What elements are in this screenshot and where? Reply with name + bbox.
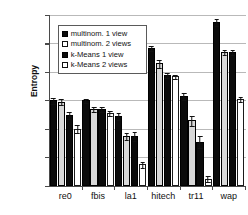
error-bar-cap-bottom	[198, 148, 203, 149]
chart-legend: multinom. 1 view multinom. 2 views k-Mea…	[58, 25, 147, 74]
error-bar-cap-top	[116, 113, 121, 114]
x-axis-tickmark	[212, 186, 213, 190]
error-bar	[198, 136, 203, 149]
legend-item-multinom-1-view: multinom. 1 view	[62, 29, 143, 40]
error-bar	[92, 107, 97, 113]
error-bar-cap-top	[124, 133, 129, 134]
error-bar	[84, 99, 89, 104]
x-axis-tickmark	[147, 186, 148, 190]
error-bar-cap-top	[75, 125, 80, 126]
bar	[196, 142, 203, 186]
legend-label-kmeans-1-view: k-Means 1 view	[71, 50, 124, 60]
bar	[213, 22, 220, 185]
error-bar-cap-top	[149, 46, 154, 47]
bar-group	[147, 15, 180, 186]
error-bar	[157, 60, 162, 69]
error-bar	[116, 113, 121, 122]
bar	[229, 52, 236, 186]
error-bar-cap-bottom	[149, 51, 154, 52]
error-bar-cap-bottom	[140, 168, 145, 169]
entropy-bar-chart: Entropy 0,951,151,351,551,751,952,15 re0…	[0, 0, 248, 215]
error-bar	[149, 46, 154, 52]
error-bar-cap-top	[59, 99, 64, 100]
bar	[188, 120, 195, 185]
error-bar-cap-bottom	[214, 26, 219, 27]
error-bar-cap-bottom	[222, 55, 227, 56]
error-bar-cap-bottom	[165, 78, 170, 79]
bar	[98, 109, 105, 186]
legend-swatch-multinom-1-view	[62, 31, 68, 37]
legend-label-multinom-1-view: multinom. 1 view	[71, 29, 128, 39]
bar	[131, 136, 138, 186]
error-bar	[67, 112, 72, 120]
x-axis-tickmark	[82, 186, 83, 190]
error-bar-cap-bottom	[116, 120, 121, 121]
error-bar-cap-top	[165, 73, 170, 74]
error-bar-cap-bottom	[51, 104, 56, 105]
x-axis-tick-label: tr11	[180, 191, 213, 201]
error-bar-cap-top	[51, 98, 56, 99]
error-bar	[75, 125, 80, 134]
bar	[172, 76, 179, 185]
bar	[156, 63, 163, 185]
error-bar-cap-top	[67, 112, 72, 113]
bar-group	[212, 15, 245, 186]
legend-label-multinom-2-views: multinom. 2 views	[71, 39, 131, 49]
error-bar-cap-bottom	[238, 102, 243, 103]
bar	[237, 99, 244, 186]
error-bar	[51, 98, 56, 105]
error-bar-cap-top	[108, 111, 113, 112]
error-bar-cap-top	[84, 99, 89, 100]
bar-group	[180, 15, 213, 186]
bar	[148, 48, 155, 186]
error-bar-cap-top	[190, 116, 195, 117]
legend-item-kmeans-1-view: k-Means 1 view	[62, 50, 143, 61]
error-bar	[190, 116, 195, 127]
x-axis-tick-label: wap	[212, 191, 245, 201]
error-bar-cap-top	[182, 93, 187, 94]
bar	[139, 164, 146, 185]
error-bar	[59, 99, 64, 106]
error-bar	[173, 75, 178, 80]
error-bar-cap-top	[132, 132, 137, 133]
error-bar-line	[200, 136, 201, 149]
legend-label-kmeans-2-views: k-Means 2 views	[71, 60, 128, 70]
x-axis-tick-label: la1	[114, 191, 147, 201]
error-bar-cap-bottom	[92, 112, 97, 113]
error-bar-cap-top	[222, 50, 227, 51]
error-bar-cap-top	[100, 107, 105, 108]
error-bar-cap-bottom	[108, 116, 113, 117]
bar	[66, 115, 73, 186]
error-bar	[230, 50, 235, 56]
bar	[205, 179, 212, 186]
error-bar-cap-bottom	[100, 112, 105, 113]
error-bar	[100, 107, 105, 113]
error-bar-cap-bottom	[75, 133, 80, 134]
bar	[221, 52, 228, 186]
error-bar	[222, 50, 227, 56]
error-bar	[108, 111, 113, 117]
legend-swatch-kmeans-1-view	[62, 52, 68, 58]
legend-swatch-multinom-2-views	[62, 41, 68, 47]
error-bar-cap-bottom	[84, 103, 89, 104]
error-bar-cap-bottom	[67, 119, 72, 120]
x-axis-labels: re0fbisla1hitechtr11wap	[49, 191, 245, 201]
error-bar-cap-bottom	[59, 105, 64, 106]
error-bar	[206, 176, 211, 182]
error-bar-cap-bottom	[230, 55, 235, 56]
error-bar-cap-top	[206, 176, 211, 177]
error-bar	[238, 97, 243, 102]
error-bar-cap-top	[140, 162, 145, 163]
x-axis-tick-label: re0	[49, 191, 82, 201]
bar	[90, 109, 97, 186]
bar	[107, 113, 114, 186]
error-bar-cap-bottom	[206, 182, 211, 183]
error-bar	[124, 133, 129, 142]
error-bar-cap-top	[157, 60, 162, 61]
bar	[82, 100, 89, 185]
error-bar-cap-top	[92, 107, 97, 108]
error-bar	[132, 132, 137, 142]
x-axis-tickmark	[245, 186, 246, 190]
error-bar	[165, 73, 170, 79]
legend-swatch-kmeans-2-views	[62, 62, 68, 68]
